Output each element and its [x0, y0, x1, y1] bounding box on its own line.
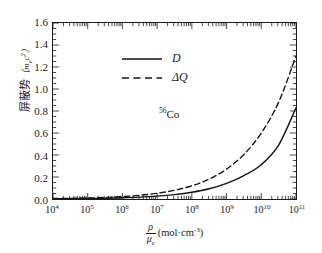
legend-item-delta-q: ΔQ [121, 68, 225, 87]
legend-line-solid-icon [121, 54, 163, 64]
legend-label-delta-q: ΔQ [163, 70, 188, 85]
isotope-symbol: Co [167, 108, 180, 120]
x-tick-label: 1011 [289, 205, 306, 215]
x-tick-label: 106 [115, 205, 129, 215]
y-tick-label: 0.0 [22, 195, 48, 206]
legend: D ΔQ [121, 49, 225, 87]
series-curve-D [53, 108, 296, 199]
y-unit-c: c [21, 56, 31, 60]
x-tick-label: 104 [45, 205, 59, 215]
x-axis-label: ρ μe (mol·cm-3) [52, 222, 297, 244]
y-axis-label: 屏蔽势（mec2） [16, 0, 32, 158]
x-tick-mantissa: 10 [115, 204, 125, 215]
x-tick-mantissa: 10 [289, 204, 299, 215]
plot-area: D ΔQ 56Co [52, 22, 297, 200]
y-tick-label: 0.2 [22, 172, 48, 183]
x-tick-exponent: 8 [195, 203, 199, 211]
isotope-annotation: 56Co [159, 108, 179, 120]
x-tick-label: 1010 [254, 205, 271, 215]
y-unit-sub-e: e [26, 60, 33, 63]
x-tick-exponent: 5 [90, 203, 94, 211]
y-unit-open-paren: （ [21, 70, 31, 79]
x-label-denominator-sub: e [152, 239, 155, 246]
x-tick-mantissa: 10 [185, 204, 195, 215]
x-tick-label: 107 [150, 205, 164, 215]
x-tick-mantissa: 10 [80, 204, 90, 215]
legend-label-d: D [163, 51, 181, 66]
isotope-mass-number: 56 [159, 106, 167, 115]
x-tick-mantissa: 10 [150, 204, 160, 215]
figure-container: 0.00.20.40.60.81.01.21.41.6 屏蔽势（mec2） D [0, 0, 322, 253]
x-tick-label: 105 [80, 205, 94, 215]
x-units-close: ) [200, 227, 204, 238]
x-tick-exponent: 7 [160, 203, 164, 211]
x-tick-exponent: 11 [299, 203, 306, 211]
x-tick-exponent: 10 [264, 203, 271, 211]
y-unit-close-paren: ） [21, 44, 31, 53]
x-axis-label-fraction: ρ μe [146, 222, 156, 244]
x-tick-mantissa: 10 [254, 204, 264, 215]
x-tick-label: 109 [220, 205, 234, 215]
x-label-denominator: μe [146, 233, 156, 245]
y-unit-sup-2: 2 [19, 53, 26, 56]
x-tick-mantissa: 10 [45, 204, 55, 215]
legend-item-d: D [121, 49, 225, 68]
x-tick-mantissa: 10 [220, 204, 230, 215]
x-label-numerator: ρ [146, 222, 156, 233]
y-axis-label-text: 屏蔽势 [19, 79, 31, 112]
legend-line-dashed-icon [121, 73, 163, 83]
x-axis-label-units: (mol·cm-3) [158, 227, 204, 238]
x-tick-exponent: 4 [55, 203, 59, 211]
y-axis-label-unit: （mec2） [21, 44, 31, 79]
x-tick-label: 108 [185, 205, 199, 215]
x-tick-exponent: 6 [125, 203, 129, 211]
y-unit-m: m [21, 63, 31, 70]
x-axis-tick-labels: 10410510610710810910101011 [52, 205, 297, 219]
x-units-open: (mol·cm [158, 227, 194, 238]
x-tick-exponent: 9 [230, 203, 234, 211]
